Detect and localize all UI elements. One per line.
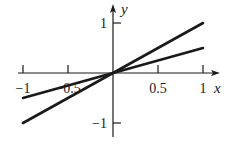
x-tick-label: −1 bbox=[16, 81, 31, 96]
x-axis-label: x bbox=[213, 80, 221, 96]
y-tick-label: −1 bbox=[92, 116, 107, 131]
y-tick-label: 1 bbox=[100, 16, 107, 31]
y-axis-label: y bbox=[119, 1, 128, 17]
line-chart: −1−0.50.511−1xy bbox=[0, 0, 229, 146]
x-tick-label: 1 bbox=[200, 81, 207, 96]
x-tick-label: −0.5 bbox=[55, 81, 80, 96]
x-tick-label: 0.5 bbox=[149, 81, 167, 96]
